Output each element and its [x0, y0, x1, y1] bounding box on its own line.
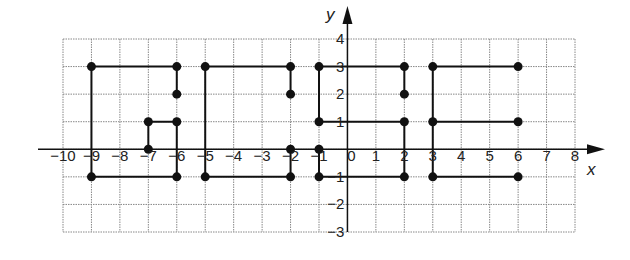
- x-tick-label: 2: [400, 147, 408, 164]
- x-tick-label: 5: [485, 147, 493, 164]
- x-tick-label: −2: [282, 147, 299, 164]
- x-tick-label: −9: [83, 147, 100, 164]
- plotted-point: [315, 62, 324, 71]
- plotted-point: [400, 62, 409, 71]
- x-tick-label: −1: [310, 147, 327, 164]
- x-tick-label: −4: [225, 147, 242, 164]
- plotted-point: [286, 62, 295, 71]
- x-tick-label: −8: [111, 147, 128, 164]
- plotted-point: [172, 62, 181, 71]
- plotted-point: [514, 172, 523, 181]
- plotted-point: [87, 62, 96, 71]
- plotted-point: [400, 117, 409, 126]
- plotted-point: [428, 172, 437, 181]
- x-tick-label: 3: [429, 147, 437, 164]
- x-tick-label: 0: [347, 147, 355, 164]
- path-letter-G-3: [319, 67, 404, 177]
- plotted-point: [514, 117, 523, 126]
- plotted-point: [286, 172, 295, 181]
- x-tick-label: 7: [542, 147, 550, 164]
- y-axis-arrow-icon: [342, 6, 352, 24]
- y-tick-label: −2: [327, 195, 344, 212]
- x-tick-label: −7: [140, 147, 157, 164]
- plotted-point: [315, 117, 324, 126]
- x-tick-label: 1: [372, 147, 380, 164]
- plotted-point: [172, 172, 181, 181]
- y-tick-label: −3: [327, 223, 344, 240]
- tick-labels: −10−9−8−7−6−5−4−3−2−10123456784321−1−2−3: [50, 30, 579, 240]
- y-axis-label: y: [325, 5, 336, 24]
- x-tick-label: 8: [571, 147, 579, 164]
- plotted-point: [428, 117, 437, 126]
- x-tick-label: 4: [457, 147, 465, 164]
- y-tick-label: 1: [336, 113, 344, 130]
- y-tick-label: −1: [327, 168, 344, 185]
- plotted-point: [87, 172, 96, 181]
- plotted-point: [315, 172, 324, 181]
- x-axis-arrow-icon: [587, 144, 605, 154]
- x-tick-label: −6: [168, 147, 185, 164]
- plotted-point: [172, 117, 181, 126]
- x-tick-label: −3: [254, 147, 271, 164]
- x-tick-label: −10: [50, 147, 75, 164]
- plotted-point: [400, 90, 409, 99]
- plotted-point: [201, 62, 210, 71]
- y-tick-label: 3: [336, 58, 344, 75]
- coordinate-grid: −10−9−8−7−6−5−4−3−2−10123456784321−1−2−3…: [0, 0, 630, 260]
- x-axis-label: x: [586, 160, 596, 179]
- y-tick-label: 4: [336, 30, 344, 47]
- x-tick-label: −5: [197, 147, 214, 164]
- plotted-point: [286, 90, 295, 99]
- y-tick-label: 2: [336, 85, 344, 102]
- plotted-point: [400, 172, 409, 181]
- plotted-point: [428, 62, 437, 71]
- plotted-point: [144, 117, 153, 126]
- plotted-point: [514, 62, 523, 71]
- x-tick-label: 6: [514, 147, 522, 164]
- plotted-point: [172, 90, 181, 99]
- plotted-point: [201, 172, 210, 181]
